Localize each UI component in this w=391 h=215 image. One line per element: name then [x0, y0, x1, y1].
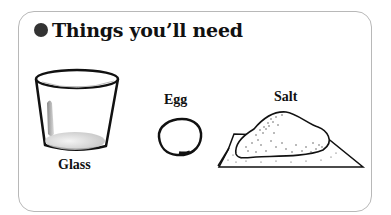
bullet-icon: [34, 23, 48, 37]
egg-icon: [155, 117, 205, 159]
salt-pile-icon: [216, 105, 366, 168]
card-heading: Things you’ll need: [34, 19, 243, 41]
item-label-egg: Egg: [164, 92, 187, 108]
glass-icon: [34, 68, 124, 158]
heading-text: Things you’ll need: [52, 19, 243, 41]
item-label-glass: Glass: [58, 157, 91, 173]
item-label-salt: Salt: [274, 89, 297, 105]
